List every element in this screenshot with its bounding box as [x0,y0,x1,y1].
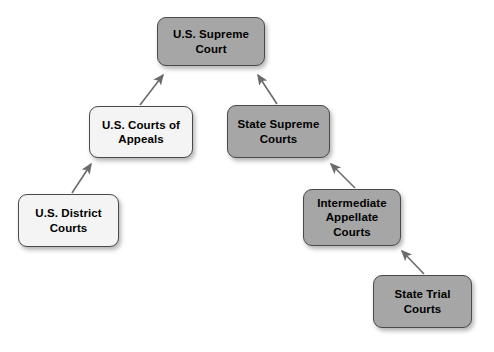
node-line-2: Courts [404,303,442,315]
node-line-2: Court [195,43,226,55]
node-line-1: Intermediate [317,197,387,209]
node-line-2: Courts [260,133,298,145]
node-label-us-district-courts: U.S. District Courts [24,206,113,235]
court-hierarchy-diagram: U.S. Supreme Court U.S. Courts of Appeal… [0,0,494,352]
node-line-3: Courts [333,226,371,238]
edge-state-supreme-to-us-supreme [258,75,277,104]
node-label-state-trial-courts: State Trial Courts [379,287,466,316]
node-label-us-courts-of-appeals: U.S. Courts of Appeals [95,118,187,147]
edge-appeals-to-supreme [140,75,163,105]
node-us-courts-of-appeals[interactable]: U.S. Courts of Appeals [89,106,193,158]
node-line-2: Courts [50,222,88,234]
node-line-1: U.S. Supreme [173,28,249,40]
node-us-supreme-court[interactable]: U.S. Supreme Court [157,17,265,66]
edge-intermediate-to-state-supreme [331,164,355,188]
node-line-2: Appellate [326,211,379,223]
node-line-1: State Trial [394,288,450,300]
node-intermediate-appellate-courts[interactable]: Intermediate Appellate Courts [303,189,401,246]
edge-district-to-appeals [72,164,91,193]
node-line-1: U.S. Courts of [102,119,180,131]
node-state-supreme-courts[interactable]: State Supreme Courts [227,105,330,158]
node-line-1: U.S. District [35,207,101,219]
node-label-us-supreme-court: U.S. Supreme Court [163,27,259,56]
node-label-intermediate-appellate-courts: Intermediate Appellate Courts [309,196,395,239]
node-state-trial-courts[interactable]: State Trial Courts [373,275,472,328]
node-label-state-supreme-courts: State Supreme Courts [233,117,324,146]
node-us-district-courts[interactable]: U.S. District Courts [18,194,119,247]
node-line-1: State Supreme [238,118,320,130]
edge-trial-to-intermediate [402,251,424,274]
node-line-2: Appeals [118,133,163,145]
